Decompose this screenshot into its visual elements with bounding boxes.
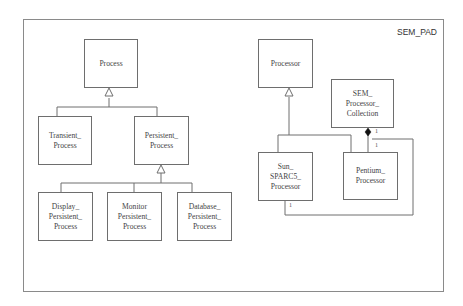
class-name: Process bbox=[49, 141, 81, 151]
class-name: Collection bbox=[346, 109, 379, 119]
class-name: Persistent_ bbox=[49, 212, 82, 222]
class-name: Monitor bbox=[118, 202, 151, 212]
generalization-arrow bbox=[105, 88, 113, 96]
class-name: Process bbox=[145, 141, 178, 151]
class-name: Processor_ bbox=[346, 99, 379, 109]
class-persistent-process[interactable]: Persistent_Process bbox=[134, 116, 189, 165]
class-name: SEM_ bbox=[346, 89, 379, 99]
class-name: Pentium_ bbox=[356, 166, 386, 176]
generalization-arrow bbox=[285, 88, 293, 96]
generalization-arrow bbox=[157, 165, 165, 173]
class-name: Process bbox=[99, 59, 122, 69]
class-name: Sun_ bbox=[270, 162, 301, 172]
class-name: Persistent_ bbox=[118, 212, 151, 222]
class-name: Processor bbox=[356, 176, 386, 186]
composition-diamond bbox=[365, 128, 371, 136]
class-sun-sparc5-processor[interactable]: Sun_SPARC5_Processor bbox=[258, 152, 313, 201]
class-database-persistent-process[interactable]: Database_Persistent_Process bbox=[177, 192, 232, 241]
uml-class-diagram: SEM_PAD 1 bbox=[0, 0, 463, 306]
class-name: Process bbox=[49, 222, 82, 232]
class-name: SPARC5_ bbox=[270, 172, 301, 182]
class-name: Persistent_ bbox=[188, 212, 221, 222]
class-name: Process bbox=[188, 222, 221, 232]
class-monitor-persistent-process[interactable]: MonitorPersistent_Process bbox=[107, 192, 162, 241]
class-sem-processor-collection[interactable]: SEM_Processor_Collection bbox=[331, 79, 394, 128]
multiplicity-label: 1 bbox=[375, 128, 378, 134]
class-name: Processor bbox=[270, 182, 301, 192]
class-name: Display_ bbox=[49, 202, 82, 212]
class-display-persistent-process[interactable]: Display_Persistent_Process bbox=[38, 192, 93, 241]
multiplicity-label: 1 bbox=[289, 202, 292, 208]
class-name: Transient_ bbox=[49, 131, 81, 141]
class-name: Database_ bbox=[188, 202, 221, 212]
class-name: Persistent_ bbox=[145, 131, 178, 141]
class-process[interactable]: Process bbox=[84, 39, 138, 88]
class-processor[interactable]: Processor bbox=[258, 39, 313, 88]
class-transient-process[interactable]: Transient_Process bbox=[38, 116, 92, 165]
class-pentium-processor[interactable]: Pentium_Processor bbox=[343, 152, 398, 200]
multiplicity-label: 1 bbox=[375, 142, 378, 148]
class-name: Processor bbox=[271, 59, 301, 69]
class-name: Process bbox=[118, 222, 151, 232]
